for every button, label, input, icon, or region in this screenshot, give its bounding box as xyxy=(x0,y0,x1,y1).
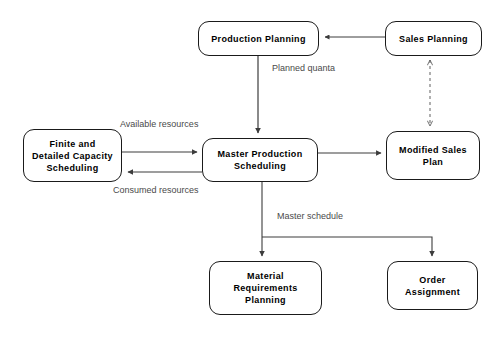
node-material-req-label: Material Requirements Planning xyxy=(229,270,301,306)
node-sales-planning[interactable]: Sales Planning xyxy=(385,21,482,56)
node-master-production-scheduling[interactable]: Master Production Scheduling xyxy=(202,138,318,182)
node-sales-planning-label: Sales Planning xyxy=(395,33,472,45)
node-finite-capacity-label: Finite and Detailed Capacity Scheduling xyxy=(28,138,117,174)
edge-label-master-schedule: Master schedule xyxy=(277,211,343,222)
edge-label-consumed-resources: Consumed resources xyxy=(113,185,199,196)
node-master-production-label: Master Production Scheduling xyxy=(214,148,307,172)
node-order-assignment[interactable]: Order Assignment xyxy=(387,261,478,310)
node-production-planning-label: Production Planning xyxy=(207,33,310,45)
edge-mps-to-order xyxy=(262,237,432,256)
edge-label-available-resources: Available resources xyxy=(120,119,198,130)
node-production-planning[interactable]: Production Planning xyxy=(198,21,319,56)
flow-diagram: Production Planning Sales Planning Finit… xyxy=(0,0,503,337)
node-modified-sales-label: Modified Sales Plan xyxy=(395,144,471,168)
node-material-requirements-planning[interactable]: Material Requirements Planning xyxy=(209,261,322,315)
node-finite-and-detailed-capacity-scheduling[interactable]: Finite and Detailed Capacity Scheduling xyxy=(23,129,122,182)
edge-label-planned-quanta: Planned quanta xyxy=(272,63,335,74)
node-order-assignment-label: Order Assignment xyxy=(401,274,464,298)
node-modified-sales-plan[interactable]: Modified Sales Plan xyxy=(386,131,480,180)
